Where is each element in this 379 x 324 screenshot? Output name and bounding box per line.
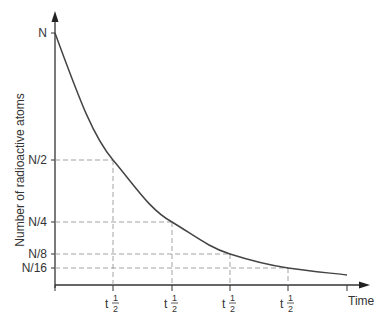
decay-curve (55, 33, 347, 275)
x-tick-label-3: t 1 2 (222, 293, 236, 314)
y-tick-label: N/8 (28, 247, 47, 261)
svg-text:1: 1 (172, 293, 177, 303)
x-ticks (55, 285, 347, 291)
svg-text:2: 2 (230, 304, 235, 314)
svg-text:1: 1 (230, 293, 235, 303)
x-tick-label-1: t 1 2 (105, 293, 119, 314)
y-tick-label: N/16 (22, 261, 48, 275)
y-axis-arrow-icon (52, 11, 59, 22)
svg-text:t: t (280, 297, 284, 311)
y-tick-label: N/4 (28, 215, 47, 229)
x-axis-arrow-icon (359, 282, 370, 289)
y-axis-title: Number of radioactive atoms (13, 93, 27, 246)
x-tick-label-2: t 1 2 (164, 293, 178, 314)
svg-text:2: 2 (288, 304, 293, 314)
svg-text:t: t (105, 297, 109, 311)
x-tick-label-4: t 1 2 (280, 293, 294, 314)
decay-chart: N N/2 N/4 N/8 N/16 t 1 2 t 1 2 t 1 2 t 1… (0, 0, 379, 324)
x-axis-title: Time (348, 294, 375, 308)
svg-text:2: 2 (113, 304, 118, 314)
svg-text:1: 1 (288, 293, 293, 303)
svg-text:1: 1 (113, 293, 118, 303)
svg-text:t: t (164, 297, 168, 311)
svg-text:t: t (222, 297, 226, 311)
y-tick-label: N (38, 26, 47, 40)
y-tick-label: N/2 (28, 153, 47, 167)
svg-text:2: 2 (172, 304, 177, 314)
